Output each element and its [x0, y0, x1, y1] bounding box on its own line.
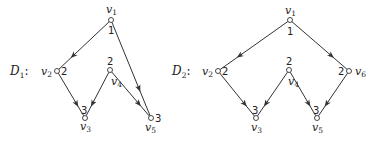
- node-weight-v3: 3: [252, 105, 258, 116]
- node-label-v1: v1: [106, 3, 117, 17]
- arrow-icon: [93, 101, 94, 104]
- node-label-v2: v2: [41, 65, 52, 79]
- arrow-icon: [243, 102, 245, 104]
- graphs-layer: D1:v11v22v33v42v53D2:v11v22v33v42v53v62: [9, 3, 366, 135]
- edge-v1-v5: [112, 22, 150, 115]
- graph-label: D1:: [9, 64, 28, 80]
- node-label-v3: v3: [251, 121, 262, 135]
- digraph-D1: D1:v11v22v33v42v53: [9, 3, 161, 135]
- edge-v1-v2: [220, 22, 288, 70]
- arrow-icon: [266, 101, 268, 103]
- node-v2: [55, 69, 60, 74]
- arrow-icon: [329, 54, 331, 56]
- arrow-icon: [73, 54, 75, 56]
- graph-label: D2:: [171, 64, 190, 80]
- node-v5: [315, 116, 320, 121]
- node-label-v4: v4: [288, 75, 299, 89]
- node-v4: [287, 68, 292, 73]
- node-label-v3: v3: [80, 120, 91, 134]
- arrow-icon: [75, 101, 77, 104]
- node-v6: [347, 69, 352, 74]
- node-label-v4: v4: [111, 75, 122, 89]
- edge-v2-v3: [220, 73, 255, 116]
- edge-v6-v5: [318, 73, 347, 116]
- edge-v1-v2: [59, 22, 109, 69]
- node-label-v1: v1: [285, 4, 296, 18]
- edge-v4-v5: [112, 72, 150, 116]
- node-weight-v6: 2: [338, 66, 344, 77]
- edge-v1-v6: [292, 22, 347, 70]
- edge-v4-v3: [86, 72, 109, 115]
- node-label-v2: v2: [202, 65, 213, 79]
- node-weight-v3: 3: [81, 105, 87, 116]
- node-weight-v4: 2: [286, 56, 292, 67]
- arrow-icon: [138, 86, 139, 89]
- node-v1: [109, 18, 114, 23]
- node-weight-v5: 3: [313, 105, 319, 116]
- node-label-v6: v6: [355, 65, 366, 79]
- arrow-icon: [137, 101, 139, 103]
- node-v2: [216, 69, 221, 74]
- arrow-icon: [307, 101, 309, 104]
- arrow-icon: [327, 101, 329, 103]
- node-weight-v5: 3: [155, 113, 161, 124]
- arrow-icon: [240, 54, 242, 56]
- node-v5: [149, 116, 154, 121]
- node-weight-v2: 2: [222, 66, 228, 77]
- edge-v2-v3: [58, 73, 83, 116]
- node-v3: [254, 116, 259, 121]
- node-weight-v2: 2: [61, 66, 67, 77]
- edge-v4-v3: [257, 72, 287, 116]
- node-label-v5: v5: [312, 121, 323, 135]
- node-weight-v1: 1: [287, 26, 293, 37]
- node-weight-v1: 1: [108, 25, 114, 36]
- node-v1: [288, 18, 293, 23]
- node-weight-v4: 2: [107, 56, 113, 67]
- node-v4: [108, 68, 113, 73]
- digraph-canvas: D1:v11v22v33v42v53D2:v11v22v33v42v53v62: [0, 0, 372, 143]
- digraph-D2: D2:v11v22v33v42v53v62: [171, 4, 366, 135]
